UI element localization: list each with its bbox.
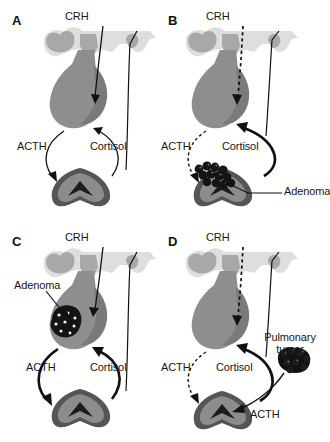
acth-arc-d: [188, 352, 206, 397]
panel-d-label-acth: ACTH: [161, 362, 191, 374]
cortisol-arc-c: [99, 351, 120, 399]
panel-c-graphics: [0, 221, 161, 442]
panel-a-label-crh: CRH: [65, 11, 89, 23]
acth-arc-c: [39, 349, 58, 399]
cortisol-arrowhead-b: [236, 122, 248, 133]
cortisol-line-a: [126, 31, 137, 170]
cortisol-arrowhead-d: [236, 343, 248, 354]
panel-b-label-crh: CRH: [206, 11, 230, 23]
panel-b: B: [160, 0, 321, 221]
panel-c-label-crh: CRH: [65, 232, 89, 244]
acth-arrowhead-d: [190, 393, 199, 404]
acth-arc-a: [46, 131, 64, 176]
panel-d-label-cortisol: Cortisol: [216, 362, 253, 374]
panel-b-label-cortisol: Cortisol: [222, 141, 259, 153]
ectopic-acth-arrow-d: [240, 373, 284, 409]
acth-arrowhead-b: [190, 172, 199, 183]
panel-d-label-pulmonary-tumor: Pulmonary tumor: [261, 331, 319, 355]
panel-c-label-acth: ACTH: [26, 362, 56, 374]
panel-a: A CR: [0, 0, 161, 221]
panel-d: D: [160, 221, 321, 442]
cortisol-arc-d: [244, 349, 273, 401]
panel-a-graphics: [0, 0, 161, 221]
panel-c-label-adenoma: Adenoma: [14, 280, 60, 292]
cortisol-arc-a: [99, 131, 118, 176]
cortisol-line-c: [126, 252, 137, 391]
panel-c: C: [0, 221, 161, 442]
cortisol-arrowhead-a: [93, 127, 103, 135]
panel-b-label-acth: ACTH: [161, 141, 191, 153]
panel-d-label-ectopic-acth: ACTH: [250, 409, 280, 421]
panel-b-label-adenoma: Adenoma: [284, 186, 330, 198]
panel-a-label-acth: ACTH: [17, 141, 47, 153]
panel-d-label-crh: CRH: [206, 232, 230, 244]
panel-c-label-cortisol: Cortisol: [90, 362, 127, 374]
panel-a-label-cortisol: Cortisol: [90, 141, 127, 153]
